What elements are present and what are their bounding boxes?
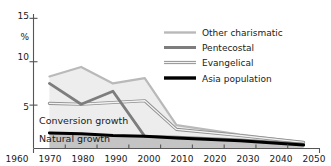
line-chart: 15 % 10 5 1960 1970 1980 1990 2000 2010 …	[0, 0, 331, 166]
legend-item-evangelical[interactable]: Evangelical	[164, 58, 253, 68]
x-tick-label-2020: 2020	[204, 154, 227, 164]
x-tick-label-1970: 1970	[39, 154, 62, 164]
legend-item-asia-population[interactable]: Asia population	[164, 74, 272, 84]
legend-item-other-charismatic[interactable]: Other charismatic	[164, 28, 283, 38]
x-tick-label-2050: 2050	[303, 154, 326, 164]
x-tick-label-2010: 2010	[171, 154, 194, 164]
y-tick-label-5: 5	[23, 102, 29, 112]
legend-label-asia-population: Asia population	[202, 74, 272, 84]
x-tick-label-2000: 2000	[138, 154, 161, 164]
x-tick-label-2030: 2030	[237, 154, 260, 164]
x-tick-label-1960: 1960	[6, 154, 29, 164]
y-axis-unit-label: %	[20, 32, 29, 42]
annotation-conversion-growth: Conversion growth	[39, 115, 128, 126]
x-tick-label-2040: 2040	[270, 154, 293, 164]
x-tick-label-1980: 1980	[72, 154, 95, 164]
legend: Other charismatic Pentecostal Evangelica…	[164, 28, 283, 84]
chart-container: 15 % 10 5 1960 1970 1980 1990 2000 2010 …	[0, 0, 331, 166]
annotation-natural-growth: Natural growth	[39, 133, 110, 144]
legend-label-other-charismatic: Other charismatic	[202, 28, 283, 38]
x-tick-label-1990: 1990	[105, 154, 128, 164]
y-tick-label-10: 10	[18, 52, 30, 62]
y-tick-label-15: 15	[18, 11, 29, 21]
legend-label-pentecostal: Pentecostal	[202, 43, 254, 53]
legend-label-evangelical: Evangelical	[202, 58, 253, 68]
legend-item-pentecostal[interactable]: Pentecostal	[164, 43, 254, 53]
